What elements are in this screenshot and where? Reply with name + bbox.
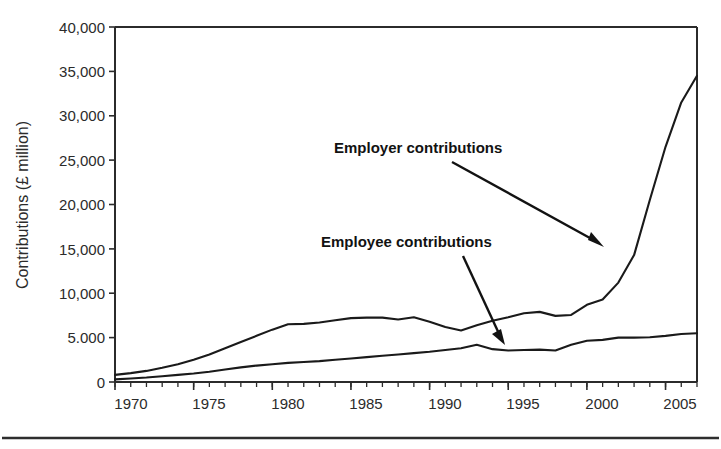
y-tick-label-15000: 15,000 bbox=[59, 241, 105, 258]
y-tick-label-5000: 5.000 bbox=[67, 329, 105, 346]
x-tick-label-1980: 1980 bbox=[271, 395, 304, 412]
y-tick-label-30000: 30,000 bbox=[59, 107, 105, 124]
y-tick-label-20000: 20,000 bbox=[59, 196, 105, 213]
x-tick-label-1985: 1985 bbox=[349, 395, 382, 412]
y-tick-label-40000: 40,000 bbox=[59, 19, 105, 36]
line-chart-svg: Contributions (£ million) 40,000 35,000 … bbox=[0, 0, 721, 449]
x-tick-label-1990: 1990 bbox=[428, 395, 461, 412]
y-tick-label-0: 0 bbox=[97, 374, 105, 391]
y-tick-label-35000: 35,000 bbox=[59, 63, 105, 80]
chart-figure: Contributions (£ million) 40,000 35,000 … bbox=[0, 0, 721, 449]
x-tick-label-1970: 1970 bbox=[114, 395, 147, 412]
x-tick-label-2000: 2000 bbox=[585, 395, 618, 412]
y-axis-title: Contributions (£ million) bbox=[14, 121, 31, 289]
annotation-label-employer: Employer contributions bbox=[334, 139, 502, 156]
x-tick-label-1975: 1975 bbox=[192, 395, 225, 412]
x-tick-label-2005: 2005 bbox=[663, 395, 696, 412]
y-tick-label-25000: 25,000 bbox=[59, 152, 105, 169]
x-tick-label-1995: 1995 bbox=[506, 395, 539, 412]
y-tick-label-10000: 10,000 bbox=[59, 285, 105, 302]
annotation-label-employee: Employee contributions bbox=[321, 233, 492, 250]
